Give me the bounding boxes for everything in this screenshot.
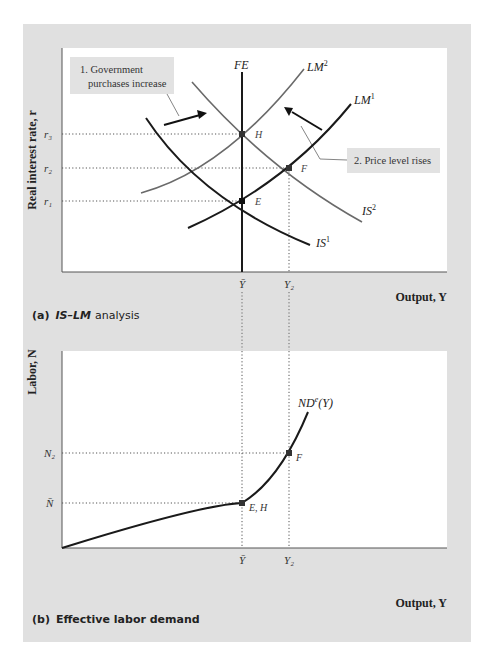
x-axis-label-a: Output, Y xyxy=(395,290,447,304)
figure-svg: Real interest rate, r r₃ r₂ r₁ 1. Govern… xyxy=(0,0,489,661)
tick-nbar: N̄ xyxy=(45,497,54,509)
tick-ybar-a: Ȳ xyxy=(239,278,247,290)
point-f-a xyxy=(286,165,292,171)
callout-government-line1: 1. Government xyxy=(80,64,143,75)
tick-r1: r₁ xyxy=(44,195,52,207)
callout-price-text: 2. Price level rises xyxy=(354,155,431,166)
tick-n2: N₂ xyxy=(43,447,55,459)
panel-title-a: (a)IS–LManalysis xyxy=(32,309,140,322)
label-point-e: E xyxy=(254,196,261,207)
tick-y2-b: Y₂ xyxy=(284,554,294,566)
point-h xyxy=(239,131,245,137)
plot-area-b xyxy=(62,351,447,548)
tick-r3: r₃ xyxy=(44,128,52,140)
label-fe: FE xyxy=(233,58,249,72)
panel-b: Labor, N N₂ N̄ NDe(Y) E, H F Ȳ Y₂ Output… xyxy=(25,349,447,626)
callout-government-line2: purchases increase xyxy=(88,78,167,89)
point-f-b xyxy=(286,450,292,456)
label-point-f-b: F xyxy=(295,452,303,463)
connector-guides xyxy=(242,292,289,350)
label-point-eh: E, H xyxy=(248,502,268,513)
point-eh xyxy=(239,500,245,506)
panel-title-b: (b)Effective labor demand xyxy=(32,613,200,626)
label-point-f-a: F xyxy=(300,163,308,174)
tick-ybar-b: Ȳ xyxy=(239,554,247,566)
tick-y2-a: Y₂ xyxy=(284,278,294,290)
y-axis-label-b: Labor, N xyxy=(25,349,39,395)
label-point-h: H xyxy=(254,129,263,140)
point-e xyxy=(239,198,245,204)
y-axis-label-a: Real interest rate, r xyxy=(25,109,39,209)
panel-a: Real interest rate, r r₃ r₂ r₁ 1. Govern… xyxy=(25,48,447,322)
tick-r2: r₂ xyxy=(44,162,52,174)
x-axis-label-b: Output, Y xyxy=(395,596,447,610)
